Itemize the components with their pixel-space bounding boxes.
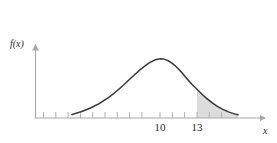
normal-distribution-figure: f(x) x 10 13	[0, 0, 277, 143]
x-axis-label: x	[263, 126, 267, 136]
x-tick-label-13: 13	[192, 122, 203, 133]
y-axis-label: f(x)	[10, 39, 24, 49]
x-tick-label-10: 10	[155, 122, 166, 133]
x-axis-ticks	[44, 112, 222, 118]
plot-canvas	[0, 0, 277, 143]
